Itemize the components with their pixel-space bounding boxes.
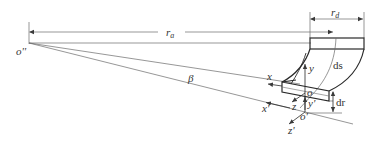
label-dr: dr [336, 96, 346, 108]
label-y-prime: y' [307, 97, 316, 109]
label-ds: ds [333, 59, 343, 71]
label-x: x [266, 70, 272, 82]
bottom-slab-inner [282, 87, 329, 96]
label-o-prime: o' [300, 110, 309, 122]
label-x-prime: x' [261, 102, 270, 114]
label-ra: ra [166, 26, 174, 40]
label-y: y [308, 62, 314, 74]
diagram-canvas: o'' ra rd β x x' y y' z z' o o' ds dr [0, 0, 380, 144]
label-rd: rd [331, 6, 340, 20]
label-z: z [291, 100, 297, 112]
label-origin-far: o'' [16, 45, 27, 57]
label-beta: β [187, 72, 194, 84]
x-axis [268, 84, 282, 86]
radial-line-x [29, 43, 300, 84]
bottom-slab [282, 80, 329, 101]
label-o: o [307, 86, 313, 98]
diagram-svg: o'' ra rd β x x' y y' z z' o o' ds dr [0, 0, 380, 144]
x-prime-axis [266, 103, 290, 109]
label-z-prime: z' [287, 124, 295, 136]
top-slab [310, 38, 364, 49]
